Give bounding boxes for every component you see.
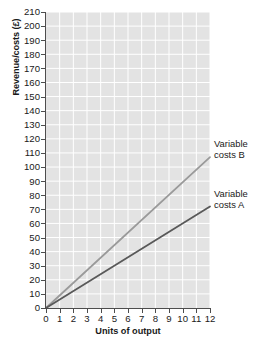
y-axis-tick (41, 195, 45, 196)
y-axis-tick-label: 40 (2, 247, 40, 257)
chart-container: Revenue/costs (£) 0102030405060708090100… (0, 0, 263, 348)
y-axis-tick (41, 223, 45, 224)
y-axis-tick (41, 167, 45, 168)
y-axis-tick (41, 82, 45, 83)
y-axis-tick-label: 60 (2, 219, 40, 229)
y-axis-tick-label: 0 (2, 303, 40, 313)
y-axis-tick (41, 12, 45, 13)
y-axis-tick-label: 90 (2, 177, 40, 187)
series-label-line-1: Variable (214, 188, 248, 199)
y-axis-tick-label: 190 (2, 36, 40, 46)
y-axis-tick (41, 238, 45, 239)
y-axis-tick-label: 170 (2, 64, 40, 74)
y-axis-tick (41, 40, 45, 41)
y-axis-tick-label: 50 (2, 233, 40, 243)
x-axis-title: Units of output (46, 326, 210, 336)
y-axis-tick (41, 280, 45, 281)
x-axis-tick-label: 12 (199, 314, 221, 324)
series-label-variable-costs-b: Variable costs B (214, 138, 248, 161)
series-label-variable-costs-a: Variable costs A (214, 188, 248, 211)
y-axis-tick (41, 308, 45, 309)
y-axis-tick (41, 252, 45, 253)
y-axis-tick (41, 54, 45, 55)
y-axis-tick-label: 100 (2, 162, 40, 172)
y-axis-tick-label: 130 (2, 120, 40, 130)
y-axis-tick-label: 150 (2, 92, 40, 102)
y-axis-tick (41, 125, 45, 126)
y-axis-tick-label: 140 (2, 106, 40, 116)
y-axis-tick-labels: 0102030405060708090100110120130140150160… (0, 0, 40, 348)
y-axis-tick (41, 266, 45, 267)
y-axis-tick-label: 160 (2, 78, 40, 88)
series-label-line-2: costs A (214, 199, 248, 210)
y-axis-tick (41, 294, 45, 295)
y-axis-tick (41, 153, 45, 154)
y-axis-tick (41, 139, 45, 140)
series-label-line-1: Variable (214, 138, 248, 149)
y-axis-tick (41, 97, 45, 98)
series-label-line-2: costs B (214, 149, 248, 160)
y-axis-tick (41, 26, 45, 27)
y-axis-tick-label: 200 (2, 21, 40, 31)
y-axis-tick-label: 20 (2, 275, 40, 285)
y-axis-tick (41, 68, 45, 69)
y-axis-tick-label: 180 (2, 50, 40, 60)
y-axis-tick-label: 10 (2, 289, 40, 299)
y-axis-tick (41, 181, 45, 182)
y-axis-tick-label: 110 (2, 148, 40, 158)
y-axis-tick-label: 210 (2, 7, 40, 17)
y-axis-tick-label: 80 (2, 191, 40, 201)
y-axis-tick (41, 111, 45, 112)
y-axis-line (45, 12, 46, 309)
grid-lines (46, 12, 210, 308)
y-axis-tick-label: 30 (2, 261, 40, 271)
y-axis-tick-label: 120 (2, 134, 40, 144)
plot-svg (46, 12, 210, 308)
plot-area (46, 12, 210, 308)
y-axis-tick (41, 209, 45, 210)
y-axis-tick-label: 70 (2, 205, 40, 215)
